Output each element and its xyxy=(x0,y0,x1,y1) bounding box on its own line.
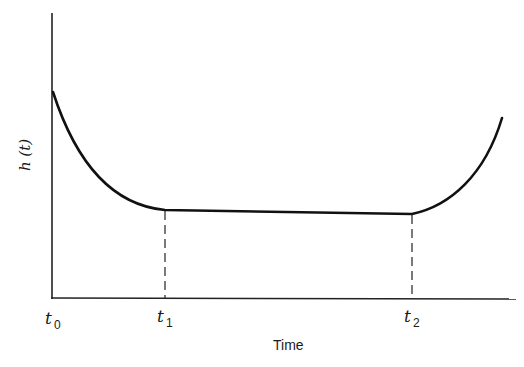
tick-t1: t 1 xyxy=(157,306,173,330)
x-axis-label: Time xyxy=(273,337,304,353)
x-axis xyxy=(51,298,516,299)
svg-text:t: t xyxy=(45,308,52,328)
svg-text:1: 1 xyxy=(166,316,173,330)
bathtub-chart: h (t) t 0 t 1 t 2 Time xyxy=(0,0,524,367)
svg-text:0: 0 xyxy=(54,318,61,332)
tick-t2: t 2 xyxy=(404,306,420,330)
y-axis-label: h (t) xyxy=(16,139,34,171)
hazard-curve xyxy=(53,92,502,214)
svg-text:t: t xyxy=(404,306,411,326)
tick-t0: t 0 xyxy=(45,308,61,332)
svg-text:2: 2 xyxy=(413,316,420,330)
svg-text:t: t xyxy=(157,306,164,326)
